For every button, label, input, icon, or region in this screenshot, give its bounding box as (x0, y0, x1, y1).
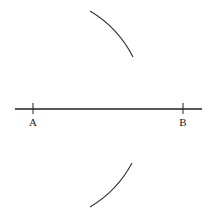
construction-diagram (0, 0, 215, 219)
point-label-b: B (179, 117, 186, 128)
upper-arc (90, 11, 133, 57)
lower-arc (90, 163, 132, 207)
point-label-a: A (29, 117, 37, 128)
